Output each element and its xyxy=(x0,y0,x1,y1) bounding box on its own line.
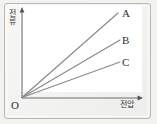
y-axis-arrowhead-icon xyxy=(20,7,25,12)
series-line-c xyxy=(22,62,120,98)
series-label-b: B xyxy=(122,35,129,46)
x-axis-arrowhead-icon xyxy=(138,96,143,101)
series-label-c: C xyxy=(122,57,129,68)
origin-label: O xyxy=(11,100,19,111)
y-axis-label: 전류 xyxy=(4,9,15,25)
series-line-a xyxy=(22,13,118,98)
current-voltage-graph-figure: 전류 전압 O A B C xyxy=(0,0,157,124)
x-axis-label: 전압 xyxy=(120,101,134,109)
series-line-b xyxy=(22,40,120,98)
series-label-a: A xyxy=(122,8,130,19)
